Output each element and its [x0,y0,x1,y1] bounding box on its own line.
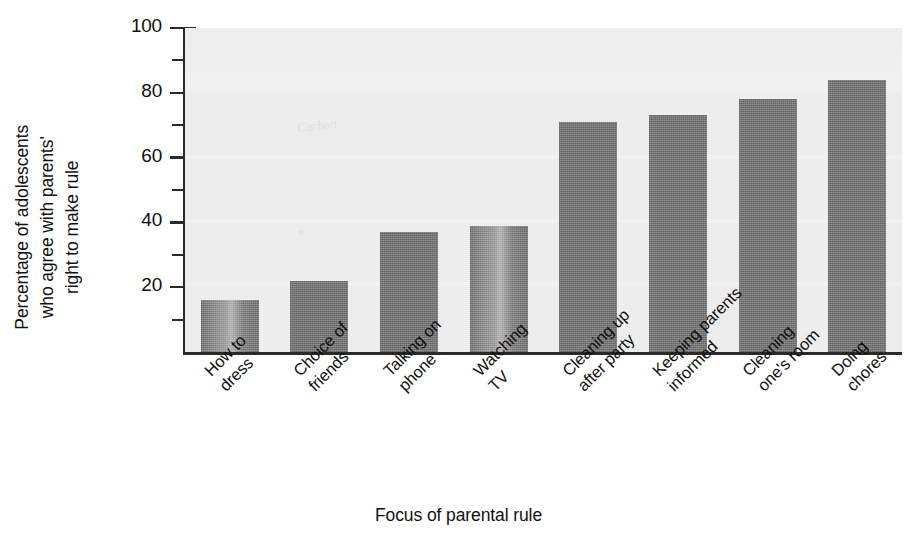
plot-area: Carbon * [183,28,902,352]
y-tick-label-40: 40 [100,209,162,231]
x-axis-category-labels: How to dressChoice of friendsTalking on … [0,352,917,492]
scan-artifact-smudge: Carbon [296,116,337,136]
bar-chart-figure: Percentage of adolescents who agree with… [0,0,917,557]
y-tick-minor-90 [172,59,183,61]
y-tick-major-20 [170,286,183,289]
y-tick-major-40 [170,221,183,224]
y-tick-label-60: 60 [100,145,162,167]
y-tick-minor-10 [172,319,183,321]
y-tick-minor-30 [172,254,183,256]
y-tick-major-80 [170,92,183,95]
y-tick-major-100 [170,27,183,30]
y-tick-minor-70 [172,124,183,126]
y-tick-label-80: 80 [100,80,162,102]
bar [828,80,886,352]
y-tick-label-20: 20 [100,274,162,296]
y-tick-label-100: 100 [100,15,162,37]
scan-artifact-speck: * [297,226,304,242]
x-axis-title: Focus of parental rule [0,505,917,526]
y-axis-tick-labels: 20406080100 [88,0,162,400]
y-axis-title: Percentage of adolescents who agree with… [10,62,85,392]
y-tick-major-60 [170,156,183,159]
y-tick-minor-50 [172,189,183,191]
